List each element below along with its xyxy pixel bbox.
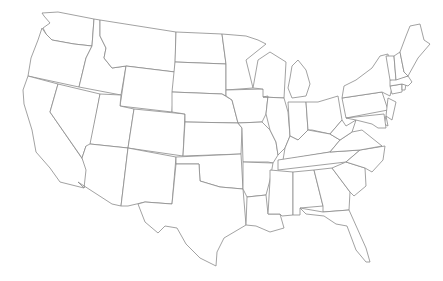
state-michigan[interactable] bbox=[288, 60, 310, 98]
state-colorado[interactable] bbox=[128, 109, 185, 156]
state-south-dakota[interactable] bbox=[172, 62, 226, 96]
state-maine[interactable] bbox=[400, 24, 430, 76]
state-new-york[interactable] bbox=[342, 54, 392, 98]
state-new-mexico[interactable] bbox=[121, 148, 176, 206]
state-florida[interactable] bbox=[300, 208, 370, 262]
state-arkansas[interactable] bbox=[243, 162, 273, 197]
state-new-jersey[interactable] bbox=[386, 98, 396, 120]
state-mississippi[interactable] bbox=[268, 170, 293, 216]
us-states-outline-map bbox=[0, 0, 443, 281]
state-arizona[interactable] bbox=[78, 144, 128, 206]
state-north-dakota[interactable] bbox=[175, 32, 226, 64]
state-wyoming[interactable] bbox=[120, 66, 175, 112]
state-kansas[interactable] bbox=[183, 122, 242, 156]
us-map bbox=[0, 0, 443, 281]
state-montana[interactable] bbox=[100, 20, 176, 72]
